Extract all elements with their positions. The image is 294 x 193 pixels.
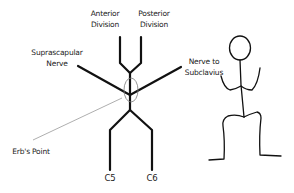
c5-label: C5 — [100, 173, 120, 184]
posterior-division-line — [130, 37, 141, 73]
erbs-point-pointer — [33, 98, 122, 140]
erbs-point-label: Erb's Point — [6, 146, 56, 157]
suprascapular-nerve-label: Suprascapular Nerve — [22, 47, 92, 69]
upper-trunk-structure — [78, 37, 181, 170]
nerve-to-subclavius-label: Nerve to Subclavius — [178, 56, 230, 78]
stick-figure-icon — [209, 36, 281, 160]
c5-root-line — [110, 110, 130, 170]
anterior-division-label: Anterior Division — [77, 8, 133, 30]
c6-root-line — [130, 110, 152, 170]
c6-label: C6 — [142, 173, 162, 184]
suprascapular-nerve-line — [78, 66, 130, 95]
posterior-division-label: Posterior Division — [126, 8, 182, 30]
anterior-division-line — [120, 37, 130, 73]
